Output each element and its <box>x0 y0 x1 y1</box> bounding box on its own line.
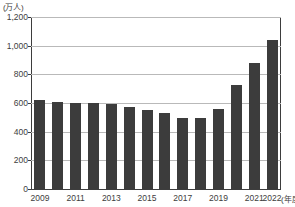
bar <box>195 118 206 189</box>
y-axis-tick-mark <box>28 74 31 75</box>
y-axis-tick-label: 600 <box>14 98 28 108</box>
x-axis-tick-label: 2015 <box>138 193 157 203</box>
y-axis-tick-mark <box>28 103 31 104</box>
y-axis-tick-labels: 1,2001,0008006004002000 <box>0 17 28 189</box>
bar <box>213 109 224 189</box>
bar-chart: (万人) 1,2001,0008006004002000 20092011201… <box>0 0 295 207</box>
bar <box>88 103 99 189</box>
bar <box>106 104 117 189</box>
x-axis-tick-label: 2009 <box>30 193 49 203</box>
x-axis-tick-label: 2021 <box>245 193 264 203</box>
bar <box>52 102 63 189</box>
bar <box>124 107 135 189</box>
x-axis-tick-label: 2019 <box>209 193 228 203</box>
x-axis-tick-label: 2022 <box>263 193 282 203</box>
y-axis-tick-mark <box>28 189 31 190</box>
bar <box>177 118 188 189</box>
gridline <box>31 103 281 104</box>
y-axis-tick-label: 200 <box>14 155 28 165</box>
bar <box>249 63 260 189</box>
bar <box>267 40 278 189</box>
y-axis-tick-mark <box>28 132 31 133</box>
bar <box>159 113 170 189</box>
gridline <box>31 17 281 18</box>
y-axis-tick-label: 1,000 <box>7 41 28 51</box>
y-axis-unit-label: (万人) <box>3 1 24 12</box>
y-axis-tick-mark <box>28 17 31 18</box>
x-axis-unit-label: (年度) <box>281 193 295 204</box>
x-axis-line <box>31 189 281 190</box>
gridline <box>31 160 281 161</box>
gridline <box>31 132 281 133</box>
x-axis-tick-label: 2017 <box>173 193 192 203</box>
x-axis-tick-label: 2011 <box>67 193 85 203</box>
bar <box>142 110 153 189</box>
y-axis-tick-mark <box>28 46 31 47</box>
y-axis-tick-mark <box>28 160 31 161</box>
gridline <box>31 74 281 75</box>
x-axis-tick-label: 2013 <box>102 193 121 203</box>
bar <box>34 100 45 189</box>
plot-area <box>31 17 281 189</box>
y-axis-tick-label: 1,200 <box>7 12 28 22</box>
y-axis-tick-label: 400 <box>14 127 28 137</box>
bar <box>70 103 81 189</box>
gridline <box>31 46 281 47</box>
bar <box>231 85 242 189</box>
y-axis-tick-label: 800 <box>14 69 28 79</box>
